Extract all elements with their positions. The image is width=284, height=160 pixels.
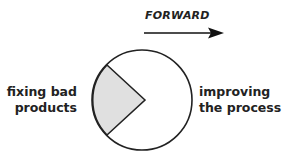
direction-label: FORWARD	[145, 9, 210, 23]
left-label: fixing bad products	[7, 84, 77, 116]
left-label-line1: fixing bad	[7, 84, 77, 100]
right-label-line2: the process	[199, 100, 281, 116]
diagram: FORWARD fixing bad products improving th…	[0, 0, 284, 160]
right-label: improving the process	[199, 84, 281, 116]
diagram-graphic	[0, 0, 284, 160]
right-label-line1: improving	[199, 84, 281, 100]
right-arrow-icon	[144, 28, 224, 39]
left-label-line2: products	[7, 100, 77, 116]
